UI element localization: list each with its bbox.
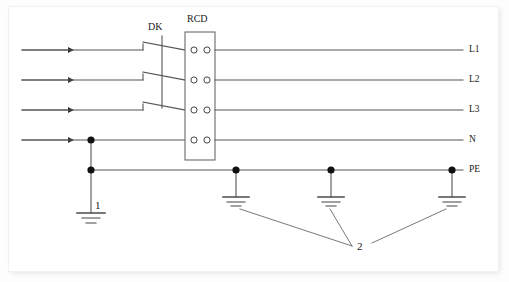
callout-2-leaders	[240, 209, 446, 246]
rcd-terminal-out-n	[204, 137, 210, 143]
schematic-screenshot: DK RCD L1 L2 L3 N PE 1 2	[0, 0, 509, 282]
earth-electrode-1	[77, 170, 105, 223]
callout-label-2: 2	[357, 241, 363, 252]
junction-pe-bond	[87, 166, 94, 173]
rcd-terminal-in-l3	[191, 107, 197, 113]
earth-electrode-2a	[223, 170, 249, 206]
dk-switch-label: DK	[148, 22, 162, 32]
rcd-terminal-out-l3	[204, 107, 210, 113]
rcd-terminal-out-l2	[204, 77, 210, 83]
rail-label-pe: PE	[469, 165, 480, 175]
earth-electrode-2c	[439, 170, 465, 206]
rail-label-l2: L2	[469, 75, 480, 85]
junction-pe-tap-3	[448, 166, 455, 173]
rail-label-l1: L1	[469, 45, 480, 55]
incoming-line-l1	[22, 44, 143, 50]
rcd-terminal-in-l1	[191, 47, 197, 53]
circuit-diagram	[0, 0, 509, 282]
earth-electrode-2b	[318, 170, 344, 206]
rcd-label: RCD	[187, 14, 208, 24]
callout-label-1: 1	[95, 200, 101, 211]
junction-pe-tap-2	[327, 166, 334, 173]
junction-n-bond	[87, 136, 94, 143]
rail-label-l3: L3	[469, 105, 480, 115]
rcd-terminal-in-n	[191, 137, 197, 143]
junction-pe-tap-1	[232, 166, 239, 173]
junction-nodes	[87, 136, 455, 173]
dk-switch-poles	[143, 42, 185, 110]
incoming-line-l2	[22, 74, 143, 80]
rcd-terminal-out-l1	[204, 47, 210, 53]
incoming-line-l3	[22, 104, 143, 110]
rcd-terminal-in-l2	[191, 77, 197, 83]
rail-label-n: N	[469, 135, 476, 145]
